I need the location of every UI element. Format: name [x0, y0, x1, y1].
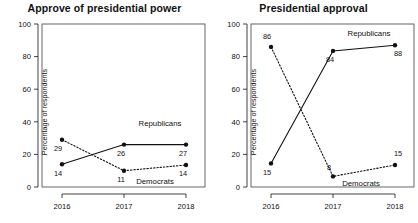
data-label-rep-2016: 15	[263, 168, 271, 177]
data-point	[122, 142, 126, 146]
y-axis: 0 20 40 60 80 100	[227, 20, 247, 192]
data-point	[60, 162, 64, 166]
plot-frame	[251, 24, 414, 187]
data-label-rep-2016: 14	[54, 169, 62, 178]
data-label-rep-2018: 88	[394, 49, 402, 58]
series-annotation-democrats: Democrats	[136, 177, 174, 186]
data-label-dem-2016: 29	[54, 144, 62, 153]
y-tick-100: 100	[227, 20, 240, 29]
data-label-dem-2018: 15	[394, 149, 402, 158]
y-tick-80: 80	[232, 52, 240, 61]
series-annotation-republicans: Republicans	[139, 119, 182, 128]
y-tick-60: 60	[232, 85, 240, 94]
data-label-rep-2017: 26	[117, 149, 125, 158]
y-tick-60: 60	[23, 85, 31, 94]
data-label-dem-2018: 14	[179, 169, 187, 178]
x-tick-2018: 2018	[178, 202, 195, 211]
x-axis: 2016 2017 2018	[263, 194, 404, 211]
y-tick-20: 20	[232, 150, 240, 159]
data-label-dem-2017: 11	[117, 175, 125, 184]
data-label-rep-2018: 27	[179, 149, 187, 158]
series-annotation-republicans: Republicans	[348, 29, 391, 38]
data-point	[393, 43, 397, 47]
y-tick-0: 0	[236, 183, 240, 192]
plot-area: 0 20 40 60 80 100 2016 2017 2018	[209, 0, 418, 223]
y-tick-20: 20	[23, 150, 31, 159]
y-axis: 0 20 40 60 80 100	[18, 20, 38, 192]
data-label-dem-2016: 86	[263, 32, 271, 41]
panel-approve-of-presidential-power: Approve of presidential power Percentage…	[0, 0, 209, 223]
y-tick-40: 40	[232, 118, 240, 127]
y-tick-0: 0	[27, 183, 31, 192]
data-point	[331, 174, 335, 178]
data-point	[331, 49, 335, 53]
x-tick-2017: 2017	[116, 202, 133, 211]
x-axis: 2016 2017 2018	[54, 194, 195, 211]
x-tick-2018: 2018	[387, 202, 404, 211]
y-tick-80: 80	[23, 52, 31, 61]
data-point	[184, 163, 188, 167]
data-point	[60, 138, 64, 142]
y-tick-100: 100	[18, 20, 31, 29]
data-point	[393, 163, 397, 167]
panel-presidential-approval: Presidential approval Percentage of resp…	[209, 0, 418, 223]
figure-two-panel-line-charts: Approve of presidential power Percentage…	[0, 0, 418, 223]
plot-area: 0 20 40 60 80 100 2016 2017 2018	[0, 0, 209, 223]
x-tick-2016: 2016	[263, 202, 280, 211]
x-tick-2016: 2016	[54, 202, 71, 211]
data-point	[269, 161, 273, 165]
y-tick-40: 40	[23, 118, 31, 127]
data-point	[184, 142, 188, 146]
data-label-dem-2017: 8	[327, 163, 331, 172]
x-tick-2017: 2017	[325, 202, 342, 211]
data-point	[269, 45, 273, 49]
series-annotation-democrats: Democrats	[342, 179, 380, 188]
series-democrats	[269, 45, 397, 179]
data-label-rep-2017: 84	[326, 55, 334, 64]
data-point	[122, 169, 126, 173]
